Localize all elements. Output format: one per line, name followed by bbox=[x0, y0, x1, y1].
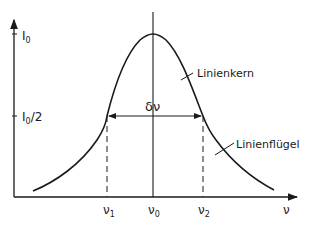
x-axis-label: ν bbox=[283, 203, 290, 217]
fwhm-label: δν bbox=[145, 99, 160, 114]
x-label-nu1: ν1 bbox=[103, 203, 115, 219]
y-label-i0: I0 bbox=[22, 29, 31, 45]
y-label-i0-half: I0/2 bbox=[22, 110, 42, 126]
line-profile-diagram: I0 I0/2 δν Linienkern Linienflügel ν1 ν0… bbox=[0, 0, 315, 227]
x-label-nu0: ν0 bbox=[148, 203, 160, 219]
wing-leader-line bbox=[215, 143, 234, 155]
wing-annotation: Linienflügel bbox=[236, 138, 300, 151]
x-label-nu2: ν2 bbox=[198, 203, 210, 219]
diagram-canvas: I0 I0/2 δν Linienkern Linienflügel ν1 ν0… bbox=[0, 0, 315, 227]
core-annotation: Linienkern bbox=[197, 67, 254, 80]
